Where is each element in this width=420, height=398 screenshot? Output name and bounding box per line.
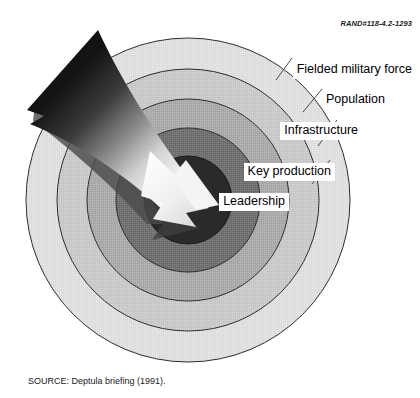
ring-label-leadership: Leadership — [219, 193, 289, 211]
source-note: SOURCE: Deptula briefing (1991). — [28, 376, 166, 386]
ring-label-population: Population — [322, 91, 389, 109]
ring-label-fielded-military-force: Fielded military force — [293, 61, 416, 79]
five-rings-figure: RAND#118-4.2-1293 — [0, 0, 420, 398]
ring-label-infrastructure: Infrastructure — [280, 122, 362, 140]
rings-diagram — [0, 0, 420, 398]
ring-label-key-production: Key production — [244, 163, 335, 181]
